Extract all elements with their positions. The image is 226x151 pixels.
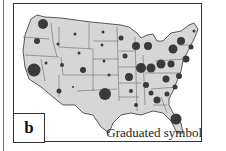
panel-label: b (13, 113, 45, 143)
symbol-circle (102, 31, 105, 34)
land-mass (23, 15, 198, 133)
map-caption: Graduated symbol (106, 125, 202, 141)
symbol-circle (168, 61, 175, 68)
symbol-circle (183, 56, 190, 63)
symbol-circle (136, 63, 146, 73)
symbol-circle (169, 45, 178, 54)
symbol-circle (28, 64, 41, 77)
symbol-circle (157, 60, 166, 69)
symbol-circle (123, 54, 128, 59)
symbol-circle (57, 89, 62, 94)
symbol-circle (193, 30, 196, 33)
edge-divider (3, 0, 4, 151)
symbol-circle (147, 64, 156, 73)
symbol-circle (103, 60, 106, 63)
symbol-circle (57, 43, 60, 46)
symbol-circle (78, 52, 81, 55)
symbol-circle (154, 97, 161, 104)
symbol-circle (38, 19, 48, 29)
symbol-circle (80, 67, 86, 73)
symbol-circle (108, 74, 111, 77)
symbol-circle (163, 76, 170, 83)
symbol-circle (189, 45, 194, 50)
symbol-circle (45, 62, 48, 65)
symbol-circle (119, 36, 124, 41)
symbol-circle (101, 44, 104, 47)
symbol-circle (72, 86, 74, 88)
symbol-circle (99, 88, 111, 100)
symbol-circle (60, 63, 64, 67)
symbol-circle (144, 42, 152, 50)
symbol-circle (176, 73, 182, 79)
panel-label-text: b (24, 118, 33, 138)
symbol-circle (143, 82, 149, 88)
symbol-circle (165, 92, 170, 97)
symbol-circle (149, 91, 154, 96)
symbol-circle (74, 33, 77, 36)
symbol-circle (132, 42, 140, 50)
symbol-circle (173, 85, 178, 90)
symbol-circle (34, 38, 40, 44)
symbol-circle (171, 114, 182, 125)
symbol-circle (134, 103, 138, 107)
symbol-circle (177, 37, 185, 45)
symbol-circle (129, 89, 133, 93)
symbol-circle (125, 73, 133, 81)
